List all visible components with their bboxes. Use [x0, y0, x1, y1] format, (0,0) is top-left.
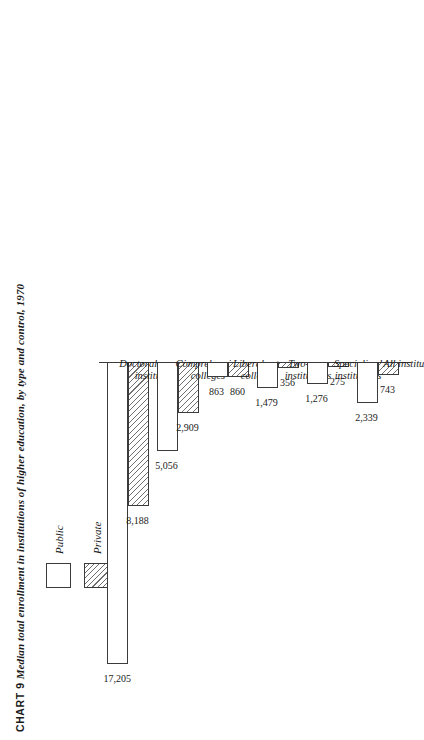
chart-figure: CHART 9 Median total enrollment in insti…	[0, 0, 424, 740]
plot-area: Median enrollment 18,00016,00014,00012,0…	[105, 362, 405, 678]
legend-label-private: Private	[91, 522, 103, 554]
bar-value-label: 1,479	[253, 396, 279, 407]
bar-private-0	[128, 362, 149, 506]
chart-number: CHART 9	[14, 682, 26, 732]
bar-value-label: 743	[374, 384, 400, 395]
bar-value-label: 2,909	[174, 422, 200, 433]
open-square-swatch	[46, 563, 71, 588]
bar-value-label: 8,188	[124, 514, 150, 525]
legend-item-public: Public	[46, 522, 71, 588]
bar-value-label: 17,205	[103, 673, 129, 684]
chart-title-text: Median total enrollment in institutions …	[14, 284, 26, 679]
legend-label-public: Public	[53, 525, 65, 554]
category-label-5: All institutions	[374, 358, 424, 370]
bar-value-label: 1,276	[303, 393, 329, 404]
bar-value-label: 5,056	[153, 459, 179, 470]
bar-public-0	[107, 362, 128, 664]
bar-value-label: 2,339	[353, 412, 379, 423]
bar-value-label: 860	[224, 386, 250, 397]
chart-title: CHART 9 Median total enrollment in insti…	[14, 284, 26, 732]
